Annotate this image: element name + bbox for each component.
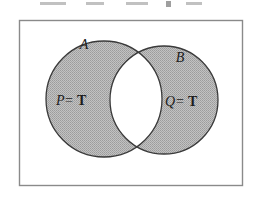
annotation-q-equals-sign: = (176, 94, 184, 109)
region-b-only-shading (19, 20, 243, 186)
annotation-q-value: T (188, 94, 198, 109)
venn-diagram: A B P = T Q = T (0, 0, 262, 206)
set-b-label: B (176, 50, 185, 65)
annotation-p-value: T (77, 93, 87, 108)
annotation-p-variable: P (55, 93, 65, 108)
annotation-p-equals-sign: = (65, 93, 73, 108)
annotation-p-equals-t: P = T (55, 93, 87, 108)
set-a-label: A (79, 37, 89, 52)
figure-root: A B P = T Q = T (0, 0, 262, 206)
annotation-q-variable: Q (165, 94, 175, 109)
annotation-q-equals-t: Q = T (165, 94, 198, 109)
